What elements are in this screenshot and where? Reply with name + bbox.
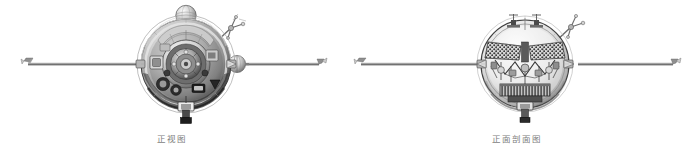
view-panel-section: 正面剖面图 — [345, 0, 689, 159]
left-antenna-boom — [354, 58, 484, 65]
spherical-shell-cutaway — [477, 14, 574, 112]
front-view-caption: 正视图 — [0, 133, 344, 145]
view-panel-front: 正视图 — [0, 0, 344, 159]
front-view-svg — [0, 0, 344, 132]
internal-battery-array — [485, 42, 565, 62]
left-antenna-boom — [21, 58, 142, 65]
right-antenna-boom — [243, 58, 327, 65]
right-antenna-boom — [578, 58, 681, 65]
front-view-drawing — [0, 0, 344, 132]
front-section-view-drawing — [345, 0, 689, 132]
front-section-view-svg — [345, 0, 689, 132]
front-section-view-caption: 正面剖面图 — [345, 133, 689, 145]
bottom-nozzle — [517, 102, 533, 123]
figure-root: 正视图 — [0, 0, 689, 159]
